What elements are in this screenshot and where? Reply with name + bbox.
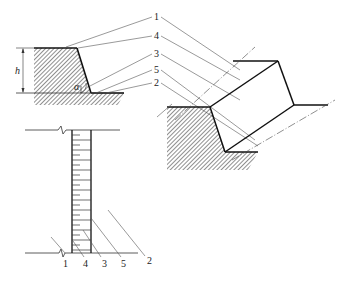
callout-4: 4 (154, 30, 159, 41)
angle-alpha-label: α (74, 81, 80, 92)
plan-callout-1: 1 (63, 258, 68, 269)
plan-callout-2: 2 (147, 255, 152, 266)
plan-leaders (51, 210, 145, 257)
centerline-upper (175, 47, 255, 120)
diagram-canvas: h α 1 4 3 5 2 (0, 0, 348, 283)
iso-back-slope (278, 61, 294, 105)
callout-1: 1 (154, 11, 159, 22)
plan-callout-4: 4 (83, 258, 88, 269)
plan-view: 1 4 3 5 2 (25, 126, 152, 269)
dim-arrow-bottom (22, 88, 25, 93)
column-rungs (72, 135, 91, 250)
centerline-lower (232, 100, 335, 160)
iso-view (157, 47, 335, 170)
dim-arrow-top (22, 48, 25, 53)
plan-callout-5: 5 (121, 258, 126, 269)
iso-bottom-back (225, 105, 294, 152)
callout-5: 5 (154, 64, 159, 75)
plan-callout-3: 3 (102, 258, 107, 269)
callout-3: 3 (154, 48, 159, 59)
diagram-svg: h α 1 4 3 5 2 (0, 0, 348, 283)
iso-top-back (210, 61, 278, 107)
section-view: h α 1 4 3 5 2 (15, 11, 258, 146)
callout-2: 2 (154, 77, 159, 88)
dimension-h-label: h (15, 65, 20, 76)
